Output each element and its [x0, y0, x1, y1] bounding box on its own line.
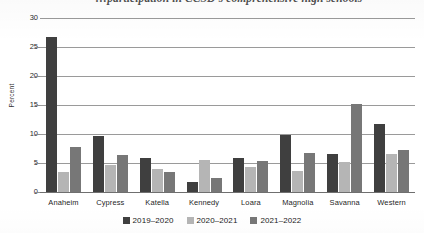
legend-item[interactable]: 2021–2022: [250, 216, 301, 225]
x-tick-label: Savanna: [321, 198, 368, 207]
x-tick-label: Katella: [134, 198, 181, 207]
legend-label: 2021–2022: [260, 216, 301, 225]
bar: [46, 37, 57, 192]
bar: [58, 172, 69, 192]
bar-chart: …participation in CCSD's comprehensive h…: [0, 0, 424, 233]
bar-group: [181, 18, 228, 192]
bar: [374, 124, 385, 192]
bar-group: [228, 18, 275, 192]
bar: [70, 147, 81, 192]
bar: [105, 165, 116, 192]
x-axis-labels: AnaheimCypressKatellaKennedyLoaraMagnoli…: [40, 198, 415, 207]
bar-group: [40, 18, 87, 192]
legend-label: 2020–2021: [197, 216, 238, 225]
bar-group: [274, 18, 321, 192]
bar: [386, 154, 397, 192]
x-tick-label: Cypress: [87, 198, 134, 207]
bar: [327, 154, 338, 192]
x-tick-label: Western: [368, 198, 415, 207]
legend-swatch-icon: [123, 217, 130, 224]
chart-title: …participation in CCSD's comprehensive h…: [34, 0, 424, 5]
x-tick-label: Anaheim: [40, 198, 87, 207]
bar: [152, 169, 163, 192]
x-tick-label: Loara: [228, 198, 275, 207]
gridline: [40, 192, 415, 193]
y-tick-label: 30: [16, 14, 38, 22]
bar-group: [368, 18, 415, 192]
bar: [292, 171, 303, 192]
bar: [211, 178, 222, 192]
chart-legend: 2019–20202020–20212021–2022: [0, 216, 424, 225]
legend-swatch-icon: [187, 217, 194, 224]
plot-area: [40, 18, 415, 192]
bar: [280, 135, 291, 192]
x-tick-label: Kennedy: [181, 198, 228, 207]
bar: [187, 182, 198, 192]
legend-label: 2019–2020: [133, 216, 174, 225]
bar: [233, 158, 244, 192]
bar-group: [321, 18, 368, 192]
bar: [93, 136, 104, 192]
bar: [351, 104, 362, 192]
bar-groups: [40, 18, 415, 192]
legend-swatch-icon: [250, 217, 257, 224]
bar: [140, 158, 151, 192]
bar: [164, 172, 175, 192]
bar: [304, 153, 315, 192]
legend-item[interactable]: 2019–2020: [123, 216, 174, 225]
bar: [245, 167, 256, 192]
bar: [398, 150, 409, 192]
y-axis-ticks: 051015202530: [0, 0, 38, 233]
bar: [339, 162, 350, 192]
bar-group: [87, 18, 134, 192]
bar: [257, 161, 268, 192]
x-tick-label: Magnolia: [274, 198, 321, 207]
bar: [199, 160, 210, 192]
bar: [117, 155, 128, 192]
bar-group: [134, 18, 181, 192]
legend-item[interactable]: 2020–2021: [187, 216, 238, 225]
